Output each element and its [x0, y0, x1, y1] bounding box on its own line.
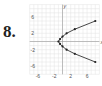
y-tick-label: -6 [30, 63, 35, 69]
parabola-graph: xy-6-22662-2-6 [0, 0, 102, 86]
data-point [59, 38, 61, 40]
data-point [94, 20, 96, 22]
data-point [61, 35, 63, 37]
data-point [57, 40, 59, 42]
y-axis-label: y [63, 3, 67, 9]
x-tick-label: 2 [69, 73, 72, 79]
data-point [61, 45, 63, 47]
y-tick-label: 2 [31, 30, 34, 36]
data-point [74, 28, 76, 30]
y-tick-label: -2 [30, 47, 35, 53]
x-tick-label: -2 [52, 73, 57, 79]
y-tick-label: 6 [31, 14, 34, 20]
x-axis-label: x [99, 39, 102, 45]
data-point [74, 53, 76, 55]
data-point [66, 49, 68, 51]
x-tick-label: -6 [36, 73, 41, 79]
data-point [66, 32, 68, 34]
data-point [94, 61, 96, 63]
data-point [59, 43, 61, 45]
x-tick-label: 6 [86, 73, 89, 79]
